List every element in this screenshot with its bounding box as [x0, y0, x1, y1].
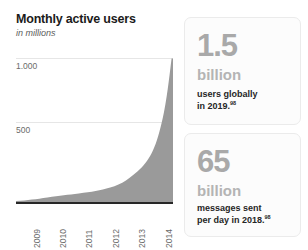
- stat-card-caption-line-2: per day in 2018.: [197, 215, 265, 225]
- stat-card-users-globally: 1.5 billion users globally in 2019.98: [184, 17, 301, 125]
- x-axis-tick-2013: 2013: [137, 229, 147, 248]
- x-axis-line: [16, 202, 173, 204]
- chart-panel: Monthly active users in millions 1.000 5…: [0, 0, 180, 250]
- x-axis-ticks: 2009 2010 2011 2012 2013 2014: [16, 208, 173, 250]
- chart-subtitle: in millions: [16, 28, 56, 38]
- stat-card-caption: users globally in 2019.98: [197, 88, 292, 112]
- x-axis-tick-2012: 2012: [111, 229, 121, 248]
- stat-card-unit: billion: [197, 67, 241, 82]
- stat-card-number: 65: [197, 146, 229, 177]
- chart-plot-area: 1.000 500: [16, 50, 173, 205]
- x-axis-tick-2009: 2009: [32, 229, 42, 248]
- stat-card-caption-line-1: users globally: [197, 89, 258, 99]
- stat-card-unit: billion: [197, 183, 241, 198]
- stat-cards: 1.5 billion users globally in 2019.98 65…: [181, 0, 308, 250]
- stat-card-messages-sent: 65 billion messages sent per day in 2018…: [184, 133, 301, 237]
- stat-card-caption-line-1: messages sent: [197, 203, 262, 213]
- stat-card-footnote-marker: 98: [230, 100, 236, 106]
- x-axis-tick-2010: 2010: [58, 229, 68, 248]
- area-series-monthly-active-users: [16, 50, 173, 205]
- x-axis-tick-2011: 2011: [84, 230, 94, 248]
- stat-card-number: 1.5: [197, 30, 237, 61]
- stat-card-caption-line-2: in 2019.: [197, 101, 230, 111]
- infographic-root: Monthly active users in millions 1.000 5…: [0, 0, 308, 250]
- stat-card-caption: messages sent per day in 2018.98: [197, 202, 292, 226]
- x-axis-tick-2014: 2014: [164, 229, 174, 248]
- stat-card-footnote-marker: 98: [265, 214, 271, 220]
- chart-title: Monthly active users: [16, 12, 136, 26]
